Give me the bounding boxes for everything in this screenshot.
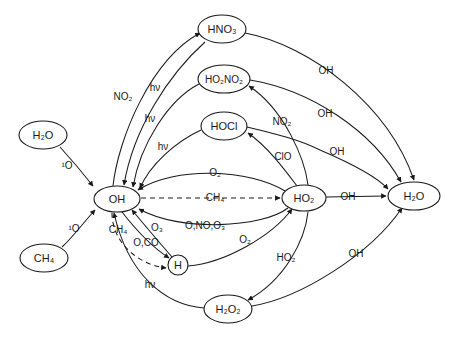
edge-h2o2-to-h2or xyxy=(252,208,402,306)
edge-label-ch4-oh-h: CH₄ xyxy=(109,224,128,235)
node-hocl-label: HOCl xyxy=(211,120,238,132)
edge-label-oh-ho2-h2o: OH xyxy=(341,191,356,202)
edge-label-hv-h2o2-oh: hν xyxy=(145,279,156,290)
edge-label-oh-hocl-h2o: OH xyxy=(330,146,345,157)
edge-label-onoo3-ho2-oh: O,NO,O₃ xyxy=(185,220,225,231)
node-ho2no2[interactable]: HO₂NO₂ xyxy=(198,65,250,93)
edge-label-hv-hno3-oh: hν xyxy=(150,82,161,93)
node-hno3[interactable]: HNO₃ xyxy=(198,15,246,43)
node-h2o-right[interactable]: H₂O xyxy=(388,182,440,210)
edge-h-to-oh-o3 xyxy=(132,210,172,257)
reaction-graph-canvas: NO₂ hν hν hν ¹O ¹O O₂ CH₄ O,NO,O₃ CH₄ O₃… xyxy=(0,0,449,341)
node-h2o-left-label: H₂O xyxy=(33,129,54,141)
node-ho2-label: HO₂ xyxy=(294,192,315,204)
node-hocl[interactable]: HOCl xyxy=(201,112,247,140)
node-h2o-right-label: H₂O xyxy=(404,190,425,202)
edge-label-o3-h-oh: O₃ xyxy=(151,222,163,233)
edge-label-oco-oh-h: O,CO xyxy=(133,237,159,248)
node-h2o2-label: H₂O₂ xyxy=(215,303,240,315)
edge-label-1o-ch4-oh: ¹O xyxy=(68,223,79,234)
edge-label-1o-h2o-oh: ¹O xyxy=(61,160,72,171)
edge-label-no2-ho2-ho2no2: NO₂ xyxy=(273,116,292,127)
edge-oh-to-h-oco xyxy=(122,212,169,258)
edge-label-hv-ho2no2-oh: hν xyxy=(145,113,156,124)
edge-hocl-to-h2or xyxy=(247,127,388,189)
node-oh[interactable]: OH xyxy=(94,186,140,212)
edge-label-o2-h-ho2: O₂ xyxy=(239,234,251,245)
edge-hno3-to-h2or xyxy=(245,33,414,180)
nodes-layer: HNO₃ HO₂NO₂ HOCl H₂O CH₄ OH HO₂ xyxy=(19,15,440,323)
edge-label-oh-h2o2-h2o: OH xyxy=(349,248,364,259)
node-ch4-left[interactable]: CH₄ xyxy=(20,244,68,272)
node-hno3-label: HNO₃ xyxy=(208,23,237,35)
edge-label-oh-hno3-h2o: OH xyxy=(319,65,334,76)
edge-label-hv-hocl-oh: hν xyxy=(158,141,169,152)
edge-label-ch4-oh-ho2: CH₄ xyxy=(206,192,225,203)
node-h[interactable]: H xyxy=(168,255,188,275)
edge-label-oh-ho2no2-h2o: OH xyxy=(318,108,333,119)
edge-labels-layer: NO₂ hν hν hν ¹O ¹O O₂ CH₄ O,NO,O₃ CH₄ O₃… xyxy=(61,65,363,290)
edge-label-no2-oh-hno3: NO₂ xyxy=(114,91,133,102)
node-ch4-left-label: CH₄ xyxy=(34,252,55,264)
edge-label-o2-ho2-oh: O₂ xyxy=(209,167,221,178)
node-ho2no2-label: HO₂NO₂ xyxy=(205,74,243,85)
reaction-diagram: NO₂ hν hν hν ¹O ¹O O₂ CH₄ O,NO,O₃ CH₄ O₃… xyxy=(0,0,449,341)
node-h2o-left[interactable]: H₂O xyxy=(19,121,67,149)
edge-ho2-to-h2or xyxy=(326,196,386,197)
node-h2o2[interactable]: H₂O₂ xyxy=(204,295,252,323)
edge-label-clo-ho2-hocl: ClO xyxy=(274,151,291,162)
edge-ho2no2-to-oh xyxy=(133,84,199,187)
edge-label-ho2-ho2-h2o2: HO₂ xyxy=(277,252,296,263)
edge-ho2no2-to-h2or xyxy=(250,80,401,182)
node-oh-label: OH xyxy=(109,193,126,205)
node-ho2[interactable]: HO₂ xyxy=(282,185,326,211)
node-h-label: H xyxy=(174,259,182,271)
